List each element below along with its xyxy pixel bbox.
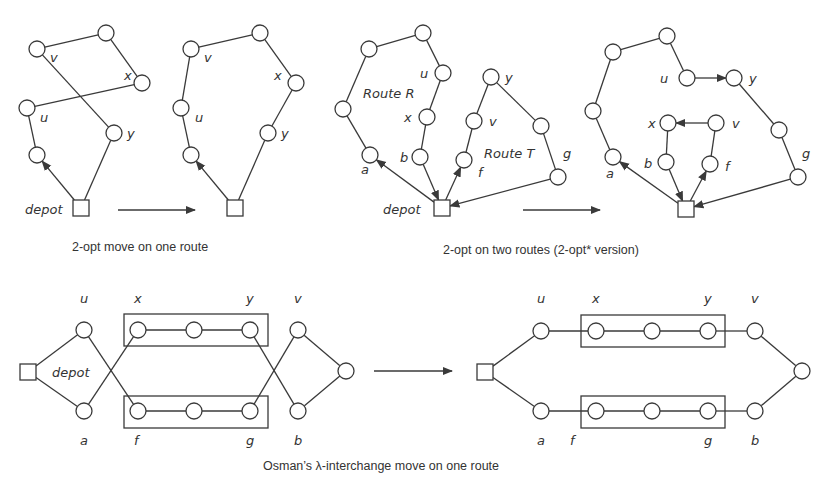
customer-node	[702, 156, 718, 172]
panel-lambda-after: uxyvafgb	[477, 291, 810, 448]
panel-two-opt-star-after: uyxvbfag	[585, 28, 810, 217]
route-edge	[377, 35, 416, 46]
customer-node	[242, 322, 258, 338]
depot-label: depot	[52, 365, 90, 380]
customer-node	[659, 28, 675, 44]
depot-edge	[493, 336, 535, 366]
depot-edge	[493, 378, 534, 407]
route-edge	[466, 129, 472, 153]
customer-node	[466, 113, 482, 129]
diagram-panels: vxuydepotvxuyuxbayvfgdepotRoute RRoute T…	[19, 25, 810, 448]
node-label-y: y	[126, 126, 135, 141]
panel-lambda-before: uxyvafgbdepot	[20, 291, 354, 448]
depot-edge	[85, 140, 111, 200]
node-label-u: u	[40, 110, 48, 125]
node-label-y: y	[245, 291, 254, 306]
depot-square	[477, 364, 493, 380]
route-edge	[347, 116, 366, 148]
customer-node	[644, 403, 660, 419]
customer-node	[747, 403, 763, 419]
customer-node	[588, 403, 604, 419]
customer-node	[588, 323, 604, 339]
customer-node	[550, 169, 566, 185]
node-label-x: x	[133, 291, 142, 306]
customer-node	[644, 323, 660, 339]
node-label-v: v	[732, 116, 740, 131]
depot-square	[20, 364, 36, 380]
customer-node	[29, 41, 45, 57]
node-label-x: x	[273, 68, 282, 83]
depot-square	[678, 201, 694, 217]
node-label-v: v	[50, 50, 58, 65]
vrp-local-search-diagram: vxuydepotvxuyuxbayvfgdepotRoute RRoute T…	[0, 0, 837, 484]
customer-node	[173, 100, 189, 116]
customer-node	[794, 363, 810, 379]
customer-node	[456, 152, 472, 168]
customer-node	[533, 403, 549, 419]
customer-node	[412, 149, 428, 165]
customer-node	[252, 25, 268, 41]
depot-edge	[423, 164, 438, 200]
customer-node	[726, 70, 742, 86]
customer-node	[106, 125, 122, 141]
customer-node	[76, 403, 92, 419]
panel-two-opt-star-before: uxbayvfgdepotRoute RRoute T	[335, 25, 571, 217]
customer-node	[585, 103, 601, 119]
route-edge	[497, 83, 536, 121]
customer-node	[288, 75, 304, 91]
customer-node	[183, 41, 199, 57]
customer-node	[76, 322, 92, 338]
node-label-x: x	[123, 68, 132, 83]
caption-two-opt-star: 2-opt on two routes (2-opt* version)	[443, 243, 639, 257]
customer-node	[186, 403, 202, 419]
customer-node	[415, 25, 431, 41]
customer-node	[435, 65, 451, 81]
node-label-y: y	[703, 291, 712, 306]
node-label-f: f	[725, 159, 732, 174]
route-edge	[35, 85, 134, 107]
node-label-x: x	[403, 110, 412, 125]
customer-node	[660, 115, 676, 131]
node-label-v: v	[294, 291, 302, 306]
customer-node	[130, 322, 146, 338]
customer-node	[605, 149, 621, 165]
node-label-b: b	[294, 433, 302, 448]
customer-node	[260, 125, 276, 141]
route-edge	[199, 35, 252, 47]
customer-node	[700, 403, 716, 419]
depot-edge	[36, 378, 77, 407]
depot-edge	[239, 140, 265, 200]
customer-node	[700, 323, 716, 339]
customer-node	[183, 147, 199, 163]
route-edge	[739, 84, 774, 124]
route-edge	[430, 81, 441, 110]
route-edge	[596, 118, 610, 149]
customer-node	[290, 322, 306, 338]
node-label-y: y	[748, 71, 757, 86]
node-label-b: b	[751, 433, 759, 448]
depot-square	[434, 200, 450, 216]
route-edge	[477, 84, 488, 113]
depot-edge	[694, 179, 790, 207]
node-label-g: g	[802, 146, 810, 161]
route-edge	[666, 131, 667, 154]
customer-node	[29, 147, 45, 163]
node-label-a: a	[80, 433, 88, 448]
customer-node	[747, 323, 763, 339]
node-label-g: g	[704, 433, 712, 448]
node-label-f: f	[570, 433, 577, 448]
customer-node	[361, 41, 377, 57]
route-edge	[304, 376, 340, 406]
customer-node	[679, 70, 695, 86]
node-label-u: u	[537, 291, 545, 306]
route-edge	[621, 38, 660, 49]
panel-two-opt-before: vxuydepot	[19, 25, 150, 217]
route-label-route_r: Route R	[363, 86, 415, 101]
customer-node	[19, 100, 35, 116]
depot-edge	[42, 161, 74, 200]
node-label-v: v	[751, 291, 759, 306]
customer-node	[790, 169, 806, 185]
node-label-y: y	[280, 126, 289, 141]
route-edge	[670, 43, 683, 71]
route-edge	[761, 376, 796, 406]
